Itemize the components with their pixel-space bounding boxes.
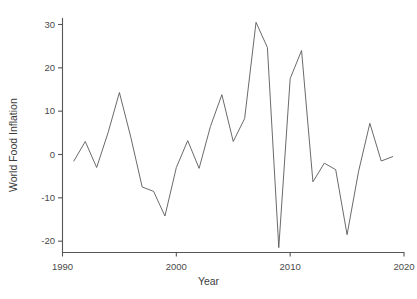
y-axis-tick-label: -10: [26, 193, 55, 203]
x-axis-tick-label: 2020: [382, 262, 417, 272]
y-axis-tick-label: 0: [26, 150, 55, 160]
x-axis-tick-label: 2000: [154, 262, 198, 272]
y-axis-tick-label: 20: [26, 63, 55, 73]
y-axis-title: World Food Inflation: [8, 70, 24, 220]
axis-lines: [63, 18, 405, 253]
x-axis-tick-label: 2010: [268, 262, 312, 272]
chart-container: 3020100-10-20 1990200020102020 World Foo…: [0, 0, 417, 299]
y-axis-tick-label: -20: [26, 236, 55, 246]
y-axis-tick-label: 30: [26, 20, 55, 30]
x-axis-tick-label: 1990: [41, 262, 85, 272]
y-axis-tick-label: 10: [26, 106, 55, 116]
line-chart-plot: [0, 0, 417, 299]
data-series-line: [74, 22, 393, 247]
y-axis-ticks: [58, 25, 63, 242]
x-axis-title: Year: [0, 276, 417, 287]
